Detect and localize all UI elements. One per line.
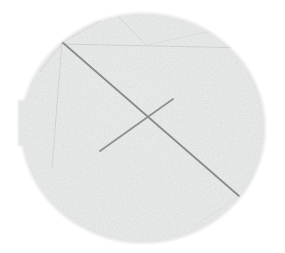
disc-group — [18, 13, 265, 243]
image-canvas — [0, 0, 285, 253]
disc-illustration — [0, 0, 285, 253]
